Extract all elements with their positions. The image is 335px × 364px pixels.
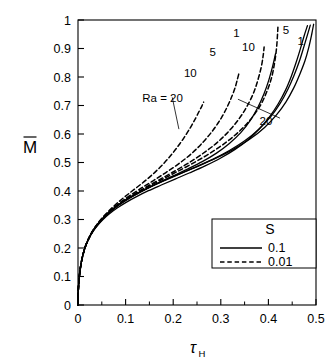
legend: S0.10.01 [212,219,316,269]
x-axis-label: τ [190,339,197,356]
annotation-solid-5: 5 [283,24,289,36]
annotation-solid-1: 1 [298,35,304,47]
annotation-ra-equals-20: Ra = 20 [142,92,183,104]
y-tick-label-5: 0.5 [54,156,71,170]
x-tick-label-2: 0.2 [165,312,182,326]
annotation-solid-20: 20 [260,115,273,127]
x-tick-label-0: 0 [75,312,82,326]
y-tick-label-2: 0.2 [54,242,71,256]
y-axis-label: M [23,138,37,157]
legend-title: S [265,221,274,237]
y-tick-label-8: 0.8 [54,71,71,85]
y-tick-label-10: 1 [64,14,71,28]
annotation-dashed-10: 10 [184,67,197,79]
y-tick-label-6: 0.6 [54,128,71,142]
legend-label-0: 0.1 [268,241,285,255]
y-tick-label-4: 0.4 [54,185,71,199]
chart-figure: 00.10.20.30.40.5 00.10.20.30.40.50.60.70… [0,0,335,364]
annotation-dashed-5: 5 [210,46,216,58]
y-tick-label-0: 0 [64,299,71,313]
x-tick-label-4: 0.4 [260,312,277,326]
legend-label-1: 0.01 [268,255,292,269]
y-tick-label-3: 0.3 [54,213,71,227]
legend-box [212,219,316,268]
x-tick-label-1: 0.1 [117,312,134,326]
annotation-dashed-1: 1 [233,27,239,39]
x-tick-label-5: 0.5 [307,312,324,326]
annotation-solid-10: 10 [242,41,255,53]
x-tick-label-3: 0.3 [212,312,229,326]
y-tick-label-7: 0.7 [54,99,71,113]
x-axis-label-subscript: H [199,348,206,359]
y-tick-label-1: 0.1 [54,270,71,284]
y-tick-label-9: 0.9 [54,42,71,56]
